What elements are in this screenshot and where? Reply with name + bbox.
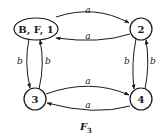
edge-4-to-2 bbox=[145, 40, 148, 89]
edge-label-1-to-3: b bbox=[17, 56, 23, 66]
edge-label-1-to-2: a bbox=[85, 5, 90, 15]
edge-label-4-to-2: b bbox=[150, 56, 156, 66]
node-label: B, F, 1 bbox=[18, 24, 53, 36]
edge-label-2-to-4: b bbox=[124, 56, 130, 66]
diagram-caption: F3 bbox=[79, 121, 92, 135]
edge-1-to-2 bbox=[56, 12, 129, 23]
edge-3-to-1 bbox=[39, 40, 42, 89]
node-label: 2 bbox=[138, 24, 145, 35]
edge-1-to-3 bbox=[27, 39, 30, 88]
node-b-f-1: B, F, 1 bbox=[14, 18, 58, 40]
edge-3-to-4 bbox=[46, 86, 129, 95]
node-label: 4 bbox=[138, 94, 145, 105]
node-3: 3 bbox=[24, 88, 46, 110]
node-2: 2 bbox=[130, 18, 152, 40]
edge-label-3-to-4: a bbox=[85, 76, 90, 86]
node-4: 4 bbox=[130, 88, 152, 110]
edge-2-to-4 bbox=[133, 39, 136, 89]
edge-2-to-1 bbox=[56, 34, 130, 40]
state-diagram: a a b b b b a a B, F, 1 2 3 4 F3 bbox=[0, 0, 165, 137]
edge-label-2-to-1: a bbox=[85, 31, 90, 41]
edge-label-4-to-3: a bbox=[85, 100, 90, 110]
edge-label-3-to-1: b bbox=[45, 56, 51, 66]
node-label: 3 bbox=[32, 94, 39, 105]
